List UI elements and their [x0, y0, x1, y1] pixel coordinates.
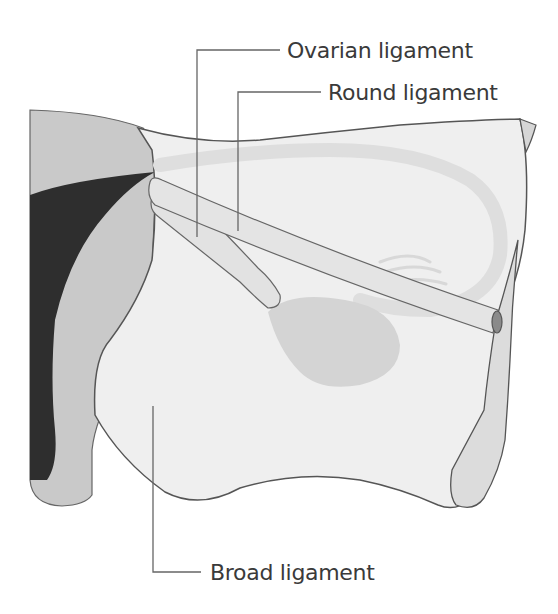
label-broad-ligament: Broad ligament — [210, 560, 375, 585]
label-ovarian-ligament: Ovarian ligament — [287, 38, 473, 63]
broad-ligament-diagram: Ovarian ligament Round ligament Broad li… — [0, 0, 558, 614]
round-ligament-cut-end — [492, 311, 502, 333]
label-round-ligament: Round ligament — [328, 80, 498, 105]
